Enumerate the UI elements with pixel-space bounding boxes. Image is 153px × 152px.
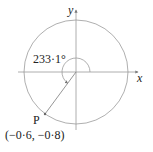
unit-circle-diagram: y x 233·1° P (−0·6, −0·8) xyxy=(0,0,153,152)
angle-label: 233·1° xyxy=(33,52,66,66)
point-p-dot xyxy=(44,113,46,115)
point-p-label: P xyxy=(33,113,40,127)
y-axis-label: y xyxy=(67,3,74,17)
radius-to-p xyxy=(45,72,76,114)
x-axis-label: x xyxy=(136,71,143,85)
point-p-coords: (−0·6, −0·8) xyxy=(5,128,65,142)
